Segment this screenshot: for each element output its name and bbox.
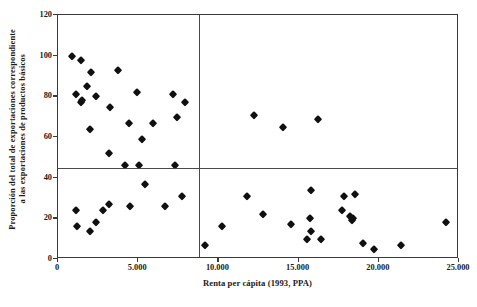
x-axis-tick-label: 15.000: [286, 263, 309, 272]
y-axis-tick-label: 120: [30, 10, 52, 19]
data-point: [125, 119, 133, 127]
data-point: [138, 135, 146, 143]
data-point: [92, 92, 100, 100]
y-axis-title-line-1: Proporción del total de exportaciones co…: [9, 29, 17, 230]
data-point: [87, 68, 95, 76]
data-point: [161, 202, 169, 210]
x-axis-tick-label: 10.000: [206, 263, 229, 272]
plot-area: [57, 14, 458, 258]
data-point: [340, 192, 348, 200]
data-point: [307, 227, 315, 235]
data-point: [338, 206, 346, 214]
data-point: [83, 82, 91, 90]
data-point: [201, 241, 209, 249]
y-axis-tick-label: 60: [30, 132, 52, 141]
data-point: [243, 192, 251, 200]
horizontal-reference-line: [58, 168, 457, 169]
x-axis-tick-mark: [378, 258, 379, 262]
data-point: [133, 88, 141, 96]
x-axis-tick-label: 20.000: [366, 263, 389, 272]
vertical-reference-line: [199, 15, 200, 257]
x-axis-tick-mark: [57, 258, 58, 262]
data-point: [170, 90, 178, 98]
x-axis-tick-mark: [137, 258, 138, 262]
data-point: [317, 235, 325, 243]
data-point: [126, 202, 134, 210]
data-point: [86, 125, 94, 133]
scatter-chart-figure: Proporción del total de exportaciones co…: [0, 0, 477, 307]
data-point: [173, 113, 181, 121]
x-axis-tick-mark: [217, 258, 218, 262]
x-axis-tick-label: 0: [55, 263, 59, 272]
data-point: [181, 98, 189, 106]
data-point: [105, 149, 113, 157]
y-axis-tick-label: 80: [30, 91, 52, 100]
data-point: [149, 119, 157, 127]
data-point: [106, 103, 114, 111]
x-axis-tick-label: 5.000: [128, 263, 147, 272]
x-axis-tick-label: 25.000: [446, 263, 469, 272]
data-point: [287, 220, 295, 228]
data-point: [77, 56, 85, 64]
data-point: [250, 111, 258, 119]
data-point: [114, 66, 122, 74]
data-point: [141, 180, 149, 188]
data-point: [306, 214, 314, 222]
x-axis-tick-mark: [458, 258, 459, 262]
y-axis-tick-label: 40: [30, 172, 52, 181]
data-point: [397, 241, 405, 249]
x-axis-title: Renta per cápita (1993, PPA): [57, 278, 458, 288]
data-point: [178, 192, 186, 200]
y-axis-tick-label: 100: [30, 50, 52, 59]
data-point: [307, 186, 315, 194]
data-point: [218, 222, 226, 230]
data-point: [99, 206, 107, 214]
data-point: [86, 227, 94, 235]
y-axis-tick-label: 20: [30, 213, 52, 222]
data-point: [370, 245, 378, 253]
data-point: [442, 218, 450, 226]
x-axis-tick-mark: [298, 258, 299, 262]
data-point: [105, 200, 113, 208]
data-point: [279, 123, 287, 131]
data-point: [303, 235, 311, 243]
data-point: [72, 206, 80, 214]
data-point: [259, 210, 267, 218]
data-point: [68, 52, 76, 60]
data-point: [73, 222, 81, 230]
y-axis-title-line-2: a las exportaciones de productos básicos: [19, 54, 27, 203]
data-point: [314, 115, 322, 123]
y-axis-tick-label: 0: [30, 254, 52, 263]
data-point: [351, 190, 359, 198]
data-point: [92, 218, 100, 226]
data-point: [359, 239, 367, 247]
plot-points-layer: [58, 15, 457, 257]
